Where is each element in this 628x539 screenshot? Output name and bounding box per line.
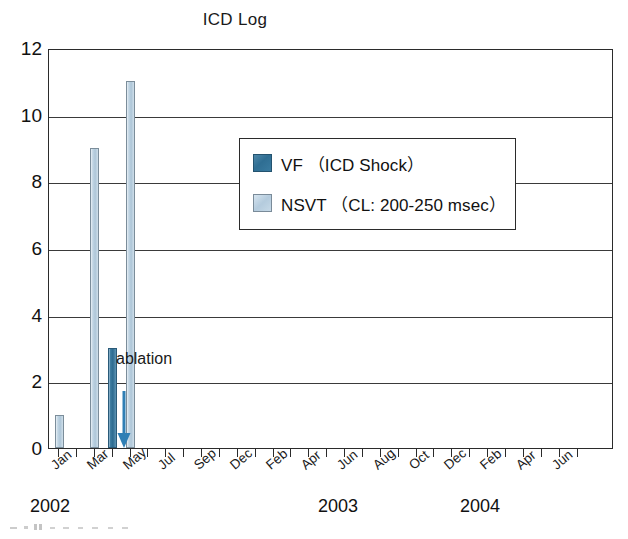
x-axis-month-labels: JanMarMayJulSepDecFebAprJunAugOctDecFebA… bbox=[48, 457, 613, 495]
ablation-annotation-label: ablation bbox=[116, 350, 172, 368]
x-tick bbox=[290, 449, 291, 457]
chart-legend: VF （ICD Shock） NSVT （CL: 200-250 msec） bbox=[239, 138, 516, 230]
icd-log-chart-figure: ICD Log 024681012 ablation JanMarMayJulS… bbox=[0, 0, 628, 539]
year-label: 2004 bbox=[460, 496, 500, 517]
x-tick bbox=[577, 449, 578, 457]
x-tick bbox=[219, 449, 220, 457]
y-axis-labels: 024681012 bbox=[0, 49, 42, 449]
x-tick bbox=[469, 449, 470, 457]
legend-swatch-nsvt-icon bbox=[253, 194, 272, 212]
y-tick-label: 4 bbox=[0, 305, 42, 327]
x-tick bbox=[326, 449, 327, 457]
y-tick-label: 12 bbox=[0, 38, 42, 60]
ablation-arrow-icon bbox=[116, 391, 132, 449]
legend-label-vf: VF （ICD Shock） bbox=[281, 151, 424, 176]
x-tick bbox=[505, 449, 506, 457]
y-tick-label: 2 bbox=[0, 371, 42, 393]
x-tick bbox=[541, 449, 542, 457]
y-tick-label: 6 bbox=[0, 238, 42, 260]
y-tick-label: 8 bbox=[0, 171, 42, 193]
legend-label-nsvt: NSVT （CL: 200-250 msec） bbox=[281, 191, 506, 216]
x-tick bbox=[76, 449, 77, 457]
x-tick bbox=[112, 449, 113, 457]
plot-area bbox=[48, 49, 613, 449]
y-tick-label: 0 bbox=[0, 438, 42, 460]
year-label: 2003 bbox=[318, 496, 358, 517]
bar-nsvt bbox=[55, 415, 64, 448]
x-axis-year-labels: 200220032004 bbox=[0, 496, 628, 522]
legend-item-nsvt: NSVT （CL: 200-250 msec） bbox=[253, 192, 506, 214]
x-tick bbox=[183, 449, 184, 457]
year-label: 2002 bbox=[30, 496, 70, 517]
chart-title: ICD Log bbox=[0, 10, 470, 30]
x-tick bbox=[398, 449, 399, 457]
scan-artifact bbox=[8, 524, 158, 531]
x-tick bbox=[433, 449, 434, 457]
legend-swatch-vf-icon bbox=[253, 154, 272, 172]
x-tick bbox=[362, 449, 363, 457]
legend-item-vf: VF （ICD Shock） bbox=[253, 152, 424, 174]
y-tick-label: 10 bbox=[0, 105, 42, 127]
bar-nsvt bbox=[90, 148, 99, 448]
